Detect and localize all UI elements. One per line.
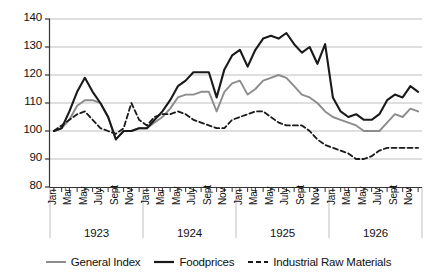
- chart-legend: General Index Foodprices Industrial Raw …: [0, 252, 437, 272]
- x-tick-label-month: July: [372, 188, 383, 205]
- legend-label-general-index: General Index: [71, 256, 141, 268]
- x-tick-label-month: Nov: [124, 188, 135, 205]
- data-series-lines: [54, 33, 418, 159]
- x-axis-year-label: 1926: [329, 227, 422, 239]
- x-axis-year-label: 1925: [236, 227, 329, 239]
- y-tick-label: 120: [14, 67, 42, 79]
- x-tick-label-month: Mar: [341, 188, 352, 205]
- y-tick-label: 100: [14, 123, 42, 135]
- legend-swatch-foodprices: [154, 257, 174, 267]
- x-tick-label-month: Nov: [403, 188, 414, 205]
- x-tick-label-month: Jan: [140, 189, 151, 205]
- legend-label-industrial-raw-materials: Industrial Raw Materials: [273, 256, 391, 268]
- x-tick-label-month: July: [93, 188, 104, 205]
- series-line-general-index: [54, 75, 418, 139]
- series-line-foodprices: [54, 33, 418, 139]
- x-tick-label-month: May: [264, 187, 275, 205]
- gridlines: [50, 19, 422, 159]
- y-tick-label: 90: [14, 151, 42, 163]
- legend-swatch-general-index: [46, 257, 66, 267]
- x-tick-label-month: Jan: [47, 189, 58, 205]
- x-tick-label-month: Nov: [310, 188, 321, 205]
- x-tick-label-month: Sept: [202, 185, 213, 205]
- y-tick-label: 130: [14, 39, 42, 51]
- y-tick-label: 140: [14, 11, 42, 23]
- x-axis-year-label: 1923: [50, 227, 143, 239]
- x-tick-label-month: Nov: [217, 188, 228, 205]
- legend-item-industrial-raw-materials: Industrial Raw Materials: [248, 256, 391, 268]
- price-index-line-chart: 8090100110120130140 JanMarMayJulySeptNov…: [0, 0, 437, 277]
- x-tick-label-month: Sept: [295, 185, 306, 205]
- x-tick-label-month: Mar: [155, 188, 166, 205]
- x-tick-label-month: July: [186, 188, 197, 205]
- legend-label-foodprices: Foodprices: [179, 256, 234, 268]
- x-tick-label-month: May: [78, 187, 89, 205]
- legend-item-general-index: General Index: [46, 256, 141, 268]
- x-tick-label-month: Jan: [326, 189, 337, 205]
- y-tick-label: 110: [14, 95, 42, 107]
- y-tick-label: 80: [14, 179, 42, 191]
- x-tick-label-month: July: [279, 188, 290, 205]
- legend-item-foodprices: Foodprices: [154, 256, 234, 268]
- legend-swatch-industrial-raw-materials: [248, 257, 268, 267]
- x-tick-label-month: Mar: [62, 188, 73, 205]
- x-tick-label-month: Jan: [233, 189, 244, 205]
- x-axis-year-label: 1924: [143, 227, 236, 239]
- x-tick-label-month: May: [171, 187, 182, 205]
- x-tick-label-month: Sept: [109, 185, 120, 205]
- x-tick-label-month: Mar: [248, 188, 259, 205]
- x-tick-label-month: May: [357, 187, 368, 205]
- x-tick-label-month: Sept: [388, 185, 399, 205]
